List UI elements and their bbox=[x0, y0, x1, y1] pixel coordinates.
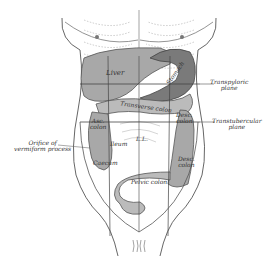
label-line: colon bbox=[176, 118, 193, 124]
label-line: vermiform process bbox=[14, 146, 71, 152]
label-line: colon bbox=[178, 162, 195, 168]
label-orifice-vermiform-process: Orifice of vermiform process bbox=[14, 140, 71, 152]
label-pelvic-colon: Pelvic colon bbox=[131, 179, 167, 185]
label-transpyloric-plane: Transpyloric plane bbox=[210, 79, 248, 91]
label-caecum: Caecum bbox=[93, 160, 118, 166]
label-ll: L.L. bbox=[136, 136, 148, 142]
label-liver: Liver bbox=[106, 70, 124, 76]
label-line: plane bbox=[212, 124, 262, 130]
label-asc-colon: Asc. colon bbox=[90, 118, 106, 130]
label-transtubercular-plane: Transtubercular plane bbox=[212, 118, 262, 130]
label-line: colon bbox=[90, 124, 106, 130]
label-desc-colon-lower: Desc. colon bbox=[178, 156, 195, 168]
label-ileum: Ileum bbox=[110, 141, 127, 147]
label-line: plane bbox=[210, 85, 248, 91]
label-desc-colon-upper: Desc. colon bbox=[176, 112, 193, 124]
